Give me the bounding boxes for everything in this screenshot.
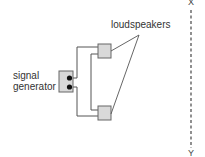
loudspeakers-label: loudspeakers (111, 19, 170, 30)
pointer-line-bottom (111, 35, 139, 114)
wire-outer-bottom (72, 87, 98, 116)
pointer-line-top (111, 35, 139, 51)
axis-label-y: Y (188, 149, 194, 157)
wire-outer-top (72, 47, 98, 78)
terminal-dot-top (67, 75, 72, 80)
loudspeaker-top-box (98, 44, 111, 58)
signal-generator-label-line1: signal (13, 70, 39, 81)
terminal-dot-bottom (67, 84, 72, 89)
loudspeaker-bottom-box (98, 106, 111, 120)
wire-inner (91, 54, 98, 110)
axis-label-x: X (188, 0, 194, 7)
signal-generator-label-line2: generator (13, 81, 56, 92)
